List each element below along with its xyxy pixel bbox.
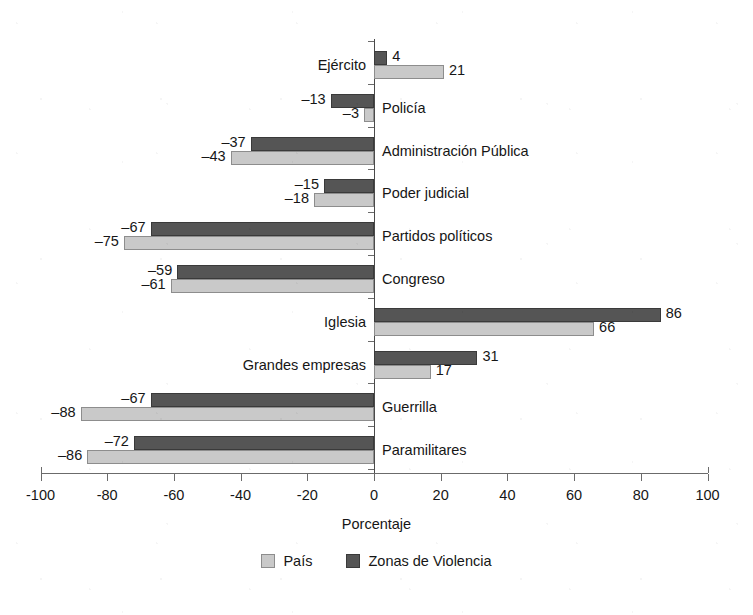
bar-value-label: –43: [201, 149, 225, 163]
bar-value-label: 17: [436, 363, 452, 377]
bar: [374, 308, 661, 322]
legend-item-pais: País: [261, 553, 312, 569]
category-label: Policía: [382, 100, 426, 116]
x-axis-tick: [107, 474, 108, 481]
category-label: Congreso: [382, 271, 445, 287]
bar-value-label: 31: [482, 349, 498, 363]
y-axis-tick: [368, 127, 374, 128]
category-label: Guerrilla: [382, 399, 437, 415]
x-axis-tick: [641, 474, 642, 481]
category-label: Administración Pública: [382, 143, 529, 159]
x-axis-end-cap-left: [41, 467, 42, 473]
x-axis-tick: [241, 474, 242, 481]
x-axis-tick-label: 60: [566, 487, 582, 503]
plot-area: -100-80-60-40-20020406080100421Ejército–…: [0, 0, 753, 480]
bar-value-label: 66: [599, 320, 615, 334]
x-axis-tick: [507, 474, 508, 481]
bar-value-label: 86: [666, 306, 682, 320]
bar: [374, 322, 594, 336]
category-label: Ejército: [318, 57, 366, 73]
x-axis-tick: [174, 474, 175, 481]
bar-value-label: –13: [301, 92, 325, 106]
x-axis-tick: [574, 474, 575, 481]
y-axis-tick: [368, 84, 374, 85]
x-axis-tick-label: 100: [695, 487, 719, 503]
bar: [87, 450, 374, 464]
y-axis-tick: [368, 255, 374, 256]
x-axis-tick: [708, 474, 709, 481]
x-axis-tick: [41, 474, 42, 481]
bar-chart: -100-80-60-40-20020406080100421Ejército–…: [0, 0, 753, 615]
bar: [374, 65, 444, 79]
bar-value-label: 4: [392, 49, 400, 63]
category-label: Iglesia: [324, 314, 366, 330]
bar-value-label: –88: [51, 405, 75, 419]
x-axis-tick: [307, 474, 308, 481]
bar: [314, 193, 374, 207]
legend-item-zonas-de-violencia: Zonas de Violencia: [346, 553, 491, 569]
bar-value-label: –72: [105, 434, 129, 448]
category-label: Poder judicial: [382, 185, 469, 201]
y-axis-tick: [368, 41, 374, 42]
bar-value-label: –67: [121, 220, 145, 234]
legend-label-pais: País: [283, 553, 312, 569]
category-label: Grandes empresas: [243, 357, 366, 373]
x-axis-tick-label: -80: [97, 487, 118, 503]
bar: [231, 151, 374, 165]
bar-value-label: –75: [95, 234, 119, 248]
legend-swatch-pais: [261, 554, 275, 568]
x-axis-title: Porcentaje: [0, 516, 753, 532]
x-axis-tick-label: 20: [433, 487, 449, 503]
x-axis-tick-label: 80: [633, 487, 649, 503]
y-axis-tick: [368, 341, 374, 342]
bar: [374, 365, 431, 379]
x-axis-tick-label: -20: [297, 487, 318, 503]
x-axis-end-cap-right: [708, 467, 709, 473]
x-axis-tick: [441, 474, 442, 481]
y-axis-tick: [368, 212, 374, 213]
bar: [151, 393, 374, 407]
y-axis-tick: [368, 298, 374, 299]
bar-value-label: –3: [343, 106, 359, 120]
legend-swatch-zonas-de-violencia: [346, 554, 360, 568]
bar: [171, 279, 374, 293]
chart-legend: País Zonas de Violencia: [0, 553, 753, 569]
y-axis-tick: [368, 169, 374, 170]
x-axis-tick-label: 40: [499, 487, 515, 503]
bar: [251, 137, 374, 151]
bar-value-label: –15: [295, 177, 319, 191]
bar-value-label: –61: [141, 277, 165, 291]
bar: [374, 51, 387, 65]
x-axis-tick-label: -40: [230, 487, 251, 503]
category-label: Partidos políticos: [382, 228, 492, 244]
bar: [324, 179, 374, 193]
x-axis-tick-label: -60: [163, 487, 184, 503]
bar: [124, 236, 374, 250]
bar-value-label: –86: [58, 448, 82, 462]
y-axis-tick: [368, 426, 374, 427]
bar: [374, 351, 477, 365]
x-axis-tick-label: 0: [370, 487, 378, 503]
zero-axis-line: [374, 39, 375, 473]
bar: [177, 265, 374, 279]
x-axis-tick-label: -100: [26, 487, 55, 503]
legend-label-zonas-de-violencia: Zonas de Violencia: [368, 553, 491, 569]
bar-value-label: –37: [221, 135, 245, 149]
bar-value-label: –18: [285, 191, 309, 205]
y-axis-tick: [368, 383, 374, 384]
bar-value-label: –67: [121, 391, 145, 405]
bar: [364, 108, 374, 122]
bar-value-label: –59: [148, 263, 172, 277]
bar-value-label: 21: [449, 63, 465, 77]
y-axis-tick: [368, 469, 374, 470]
category-label: Paramilitares: [382, 442, 467, 458]
bar: [151, 222, 374, 236]
bar: [81, 407, 374, 421]
x-axis-tick: [374, 474, 375, 481]
bar: [134, 436, 374, 450]
